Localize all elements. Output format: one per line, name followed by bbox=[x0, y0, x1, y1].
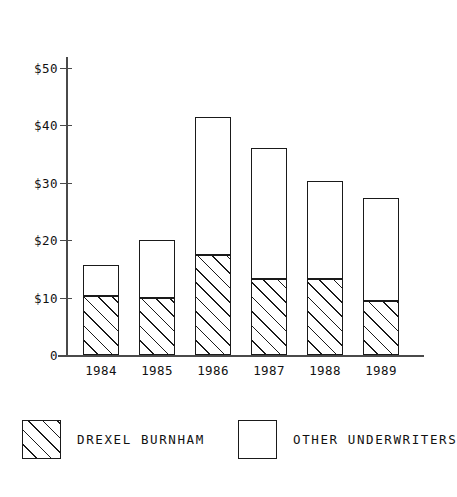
bar-segment-1989-drexel-burnham bbox=[363, 301, 399, 355]
x-axis-label-1986: 1986 bbox=[193, 363, 233, 378]
bar-group-1984 bbox=[83, 0, 119, 355]
bar-segment-1988-drexel-burnham bbox=[307, 279, 343, 355]
legend-item-drexel-burnham: DREXEL BURNHAM bbox=[22, 420, 205, 459]
bar-group-1985 bbox=[139, 0, 175, 355]
x-axis-label-1989: 1989 bbox=[361, 363, 401, 378]
x-axis-label-1988: 1988 bbox=[305, 363, 345, 378]
bar-segment-1986-other-underwriters bbox=[195, 117, 231, 255]
bar-segment-1988-other-underwriters bbox=[307, 181, 343, 280]
chart-legend: DREXEL BURNHAM OTHER UNDERWRITERS bbox=[0, 420, 450, 480]
bar-segment-1987-drexel-burnham bbox=[251, 279, 287, 355]
bar-stack-1987 bbox=[251, 0, 287, 355]
bars-layer bbox=[0, 0, 450, 400]
bar-segment-1985-other-underwriters bbox=[139, 240, 175, 297]
x-axis-label-1984: 1984 bbox=[81, 363, 121, 378]
bar-group-1988 bbox=[307, 0, 343, 355]
bar-segment-1985-drexel-burnham bbox=[139, 298, 175, 355]
bar-stack-1985 bbox=[139, 0, 175, 355]
bar-stack-1989 bbox=[363, 0, 399, 355]
bar-group-1986 bbox=[195, 0, 231, 355]
bar-stack-1984 bbox=[83, 0, 119, 355]
x-axis-label-1987: 1987 bbox=[249, 363, 289, 378]
bar-segment-1987-other-underwriters bbox=[251, 148, 287, 278]
legend-swatch-plain-icon bbox=[238, 420, 277, 459]
plot-area: $50 $40 $30 $20 $10 0 1984 1985 1986 198… bbox=[0, 0, 450, 400]
legend-label-drexel-burnham: DREXEL BURNHAM bbox=[77, 432, 205, 447]
bar-stack-1986 bbox=[195, 0, 231, 355]
bar-segment-1984-drexel-burnham bbox=[83, 296, 119, 355]
x-axis-label-1985: 1985 bbox=[137, 363, 177, 378]
bar-group-1989 bbox=[363, 0, 399, 355]
bar-stack-1988 bbox=[307, 0, 343, 355]
legend-swatch-hatched-icon bbox=[22, 420, 61, 459]
legend-label-other-underwriters: OTHER UNDERWRITERS bbox=[293, 432, 457, 447]
legend-item-other-underwriters: OTHER UNDERWRITERS bbox=[238, 420, 457, 459]
bar-segment-1986-drexel-burnham bbox=[195, 255, 231, 355]
bar-segment-1989-other-underwriters bbox=[363, 198, 399, 301]
bar-group-1987 bbox=[251, 0, 287, 355]
bar-segment-1984-other-underwriters bbox=[83, 265, 119, 297]
